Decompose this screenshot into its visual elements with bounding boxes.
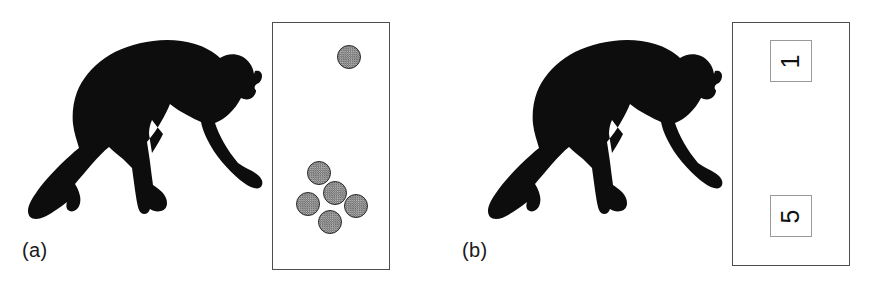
chimp-body-path (488, 40, 722, 219)
figure-root: (a) 1 5 (b) (0, 0, 879, 293)
stimulus-tray-a[interactable] (272, 22, 390, 270)
stimulus-tray-b[interactable]: 1 5 (732, 22, 850, 266)
numeral-value-top: 1 (779, 54, 804, 68)
numeral-value-bottom: 5 (779, 209, 804, 223)
dot-cluster-4[interactable] (344, 194, 368, 218)
chimp-body-path (28, 40, 262, 219)
dot-cluster-1[interactable] (307, 161, 331, 185)
dot-cluster-5[interactable] (318, 210, 342, 234)
dot-cluster-3[interactable] (296, 192, 320, 216)
panel-b: 1 5 (b) (440, 0, 879, 293)
dot-cluster-2[interactable] (323, 181, 347, 205)
numeral-card-bottom[interactable]: 5 (770, 195, 812, 237)
chimpanzee-silhouette-a (22, 28, 272, 228)
chimpanzee-silhouette-b (482, 28, 732, 228)
dot-top-1[interactable] (337, 45, 361, 69)
numeral-card-top[interactable]: 1 (770, 40, 812, 82)
panel-label-a: (a) (22, 240, 47, 260)
panel-label-b: (b) (462, 240, 487, 260)
panel-a: (a) (0, 0, 439, 293)
